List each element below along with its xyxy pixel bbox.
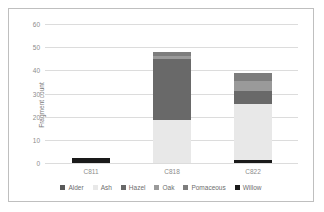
bar-segment[interactable]: [234, 104, 272, 160]
legend-swatch-icon: [235, 185, 240, 190]
legend-item[interactable]: Oak: [154, 184, 174, 191]
legend-item[interactable]: Hazel: [121, 184, 146, 191]
y-axis-tick-label: 20: [33, 113, 40, 120]
y-axis-tick-label: 10: [33, 136, 40, 143]
legend-item[interactable]: Willow: [235, 184, 262, 191]
legend-label: Oak: [162, 184, 174, 191]
legend-label: Alder: [68, 184, 83, 191]
gridline: [45, 163, 298, 164]
x-axis-tick-label: C822: [213, 168, 293, 175]
bar-segment[interactable]: [153, 59, 191, 120]
legend-swatch-icon: [93, 185, 98, 190]
y-axis-tick-label: 50: [33, 44, 40, 51]
legend-item[interactable]: Alder: [60, 184, 83, 191]
bar-stack[interactable]: C811: [72, 158, 110, 163]
legend-swatch-icon: [60, 185, 65, 190]
bar-stack[interactable]: C822: [234, 73, 272, 163]
bar-segment[interactable]: [234, 81, 272, 91]
legend-item[interactable]: Pomaceous: [183, 184, 225, 191]
bar-segment[interactable]: [72, 158, 110, 163]
y-axis-tick-label: 30: [33, 90, 40, 97]
legend-swatch-icon: [154, 185, 159, 190]
chart-frame: Fragment count 0102030405060 C811C818C82…: [8, 8, 314, 202]
gridline: [45, 24, 298, 25]
legend-item[interactable]: Ash: [93, 184, 112, 191]
plot-area: 0102030405060 C811C818C822: [45, 24, 298, 163]
legend-label: Pomaceous: [191, 184, 225, 191]
legend-label: Ash: [101, 184, 112, 191]
bar-stack[interactable]: C818: [153, 52, 191, 163]
legend-label: Hazel: [129, 184, 146, 191]
bar-segment[interactable]: [234, 91, 272, 104]
legend-label: Willow: [243, 184, 262, 191]
bar-segment[interactable]: [234, 73, 272, 81]
legend-swatch-icon: [121, 185, 126, 190]
bar-segment[interactable]: [153, 120, 191, 163]
chart-legend: AlderAshHazelOakPomaceousWillow: [9, 184, 313, 191]
y-axis-tick-label: 60: [33, 21, 40, 28]
x-axis-tick-label: C818: [132, 168, 212, 175]
x-axis-tick-label: C811: [51, 168, 131, 175]
y-axis-tick-label: 0: [36, 160, 40, 167]
gridline: [45, 47, 298, 48]
y-axis-tick-label: 40: [33, 67, 40, 74]
bar-segment[interactable]: [234, 160, 272, 163]
legend-swatch-icon: [183, 185, 188, 190]
